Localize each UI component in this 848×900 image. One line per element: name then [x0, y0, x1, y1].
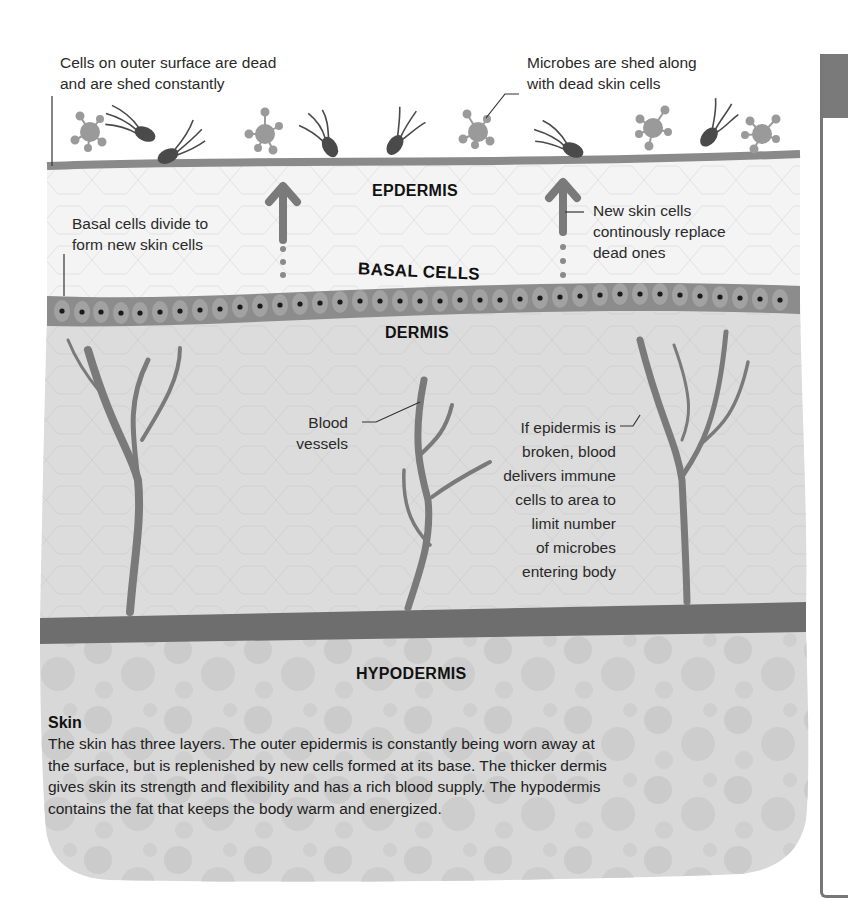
annotation-line: entering body — [480, 560, 616, 584]
annotation-line: Basal cells divide to — [72, 213, 208, 234]
basal-divide-annotation: Basal cells divide to form new skin cell… — [72, 213, 208, 255]
skin-layers-diagram: Cells on outer surface are dead and are … — [0, 0, 848, 900]
skin-caption: Skin The skin has three layers. The oute… — [48, 714, 608, 819]
annotation-line: Cells on outer surface are dead — [60, 52, 276, 73]
annotation-line: Blood — [280, 412, 348, 433]
annotation-line: dead ones — [593, 242, 726, 263]
microbes-shed-annotation: Microbes are shed along with dead skin c… — [527, 52, 697, 94]
annotation-line: vessels — [280, 433, 348, 454]
annotation-line: and are shed constantly — [60, 73, 276, 94]
dermis-heading: DERMIS — [385, 324, 449, 342]
annotation-line: broken, blood — [480, 440, 616, 464]
annotation-line: form new skin cells — [72, 234, 208, 255]
caption-title: Skin — [48, 714, 608, 732]
annotation-line: If epidermis is — [480, 416, 616, 440]
dead-cells-annotation: Cells on outer surface are dead and are … — [60, 52, 276, 94]
annotation-line: with dead skin cells — [527, 73, 697, 94]
annotation-line: delivers immune — [480, 464, 616, 488]
annotation-line: limit number — [480, 512, 616, 536]
immune-response-annotation: If epidermis is broken, blood delivers i… — [480, 416, 616, 584]
annotation-line: cells to area to — [480, 488, 616, 512]
epidermis-heading: EPDERMIS — [372, 182, 458, 200]
hypodermis-heading: HYPODERMIS — [356, 665, 467, 683]
annotation-line: continously replace — [593, 221, 726, 242]
annotation-line: Microbes are shed along — [527, 52, 697, 73]
new-cells-annotation: New skin cells continously replace dead … — [593, 200, 726, 263]
caption-body: The skin has three layers. The outer epi… — [48, 733, 608, 819]
adjacent-page-panel — [820, 54, 848, 898]
annotation-line: of microbes — [480, 536, 616, 560]
annotation-line: New skin cells — [593, 200, 726, 221]
blood-vessels-annotation: Blood vessels — [280, 412, 348, 454]
panel-header-bar — [823, 54, 848, 118]
